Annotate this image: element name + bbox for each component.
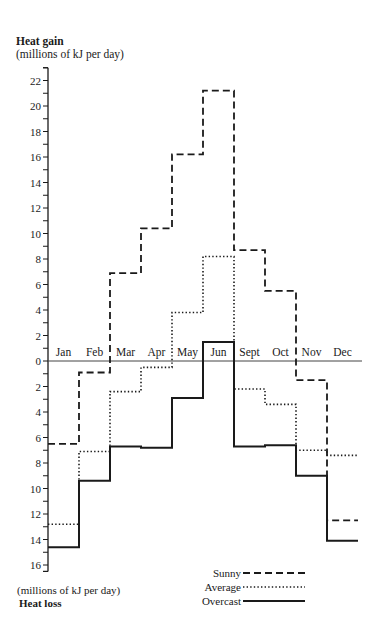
month-label: Mar — [116, 346, 135, 358]
y-tick-label: 16 — [30, 559, 42, 571]
step-chart: 2468101214161820220246810121416 JanFebMa… — [0, 0, 376, 643]
legend-label-average: Average — [205, 581, 242, 593]
month-label: Jan — [56, 346, 72, 358]
y-tick-label: 6 — [36, 432, 42, 444]
y-tick-label: 0 — [36, 355, 42, 367]
month-label: Sept — [239, 346, 260, 359]
y-tick-label: 20 — [30, 100, 42, 112]
legend-label-overcast: Overcast — [202, 595, 241, 607]
y-axis: 2468101214161820220246810121416 — [30, 68, 48, 572]
series-sunny — [48, 91, 358, 521]
y-tick-label: 2 — [36, 330, 42, 342]
month-label: Nov — [302, 346, 322, 358]
y-tick-label: 12 — [30, 508, 41, 520]
y-tick-label: 8 — [36, 457, 42, 469]
y-tick-label: 6 — [36, 279, 42, 291]
series-overcast — [48, 342, 358, 547]
y-tick-label: 10 — [30, 228, 42, 240]
month-label: Jun — [211, 346, 227, 358]
legend-label-sunny: Sunny — [213, 567, 242, 579]
y-tick-label: 16 — [30, 151, 42, 163]
month-label: Dec — [333, 346, 352, 358]
month-label: Feb — [86, 346, 104, 358]
y-tick-label: 4 — [36, 304, 42, 316]
y-tick-label: 14 — [30, 534, 42, 546]
y-tick-label: 2 — [36, 381, 42, 393]
y-tick-label: 4 — [36, 406, 42, 418]
month-label: May — [177, 346, 198, 359]
legend: SunnyAverageOvercast — [202, 567, 305, 607]
y-tick-label: 8 — [36, 253, 42, 265]
y-tick-label: 22 — [30, 75, 41, 87]
month-label: Oct — [272, 346, 289, 358]
month-label: Apr — [148, 346, 166, 359]
y-tick-label: 10 — [30, 483, 42, 495]
series-lines — [48, 91, 358, 547]
y-tick-label: 12 — [30, 202, 41, 214]
y-tick-label: 18 — [30, 126, 42, 138]
y-tick-label: 14 — [30, 177, 42, 189]
